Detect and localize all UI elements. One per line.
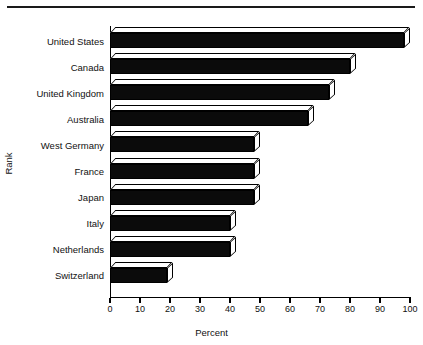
x-axis-tick-label: 70 [305,304,335,314]
bar-united-kingdom [110,85,329,100]
bar-front-face [110,111,308,126]
bar-west-germany [110,137,254,152]
category-label-united-states: United States [47,36,104,47]
bar-front-face [110,85,329,100]
bar-united-states [110,33,404,48]
bar-front-face [110,216,230,231]
bar-front-face [110,268,167,283]
category-label-switzerland: Switzerland [55,270,104,281]
x-axis-tick [259,298,260,303]
x-axis-tick-label: 30 [185,304,215,314]
category-label-west-germany: West Germany [41,140,104,151]
bar-australia [110,111,308,126]
x-axis-tick-label: 10 [125,304,155,314]
x-axis-tick [139,298,140,303]
bar-netherlands [110,242,230,257]
x-axis-tick [109,298,110,303]
bar-switzerland [110,268,167,283]
category-label-france: France [74,166,104,177]
bar-canada [110,59,350,74]
bar-side-face [329,80,335,100]
x-axis-tick-label: 90 [365,304,395,314]
category-label-canada: Canada [71,62,104,73]
bar-chart-figure: United StatesCanadaUnited KingdomAustral… [0,0,423,345]
category-label-australia: Australia [67,114,104,125]
x-axis-tick-label: 80 [335,304,365,314]
x-axis-tick [289,298,290,303]
x-axis-tick [169,298,170,303]
x-axis-tick-label: 40 [215,304,245,314]
bar-front-face [110,190,254,205]
x-axis-tick-label: 100 [395,304,423,314]
x-axis-tick [379,298,380,303]
y-axis-title: Rank [3,144,14,184]
x-axis-tick [199,298,200,303]
bar-side-face [350,54,356,74]
bar-side-face [254,132,260,152]
bar-front-face [110,33,404,48]
bar-front-face [110,242,230,257]
x-axis-tick-label: 0 [95,304,125,314]
category-label-italy: Italy [87,218,104,229]
bar-front-face [110,137,254,152]
x-axis-tick [409,298,410,303]
bar-france [110,164,254,179]
x-axis-tick-label: 20 [155,304,185,314]
category-label-netherlands: Netherlands [53,244,104,255]
x-axis-title: Percent [0,327,423,338]
bar-front-face [110,164,254,179]
category-label-column: United StatesCanadaUnited KingdomAustral… [0,0,104,345]
x-axis-tick-label: 60 [275,304,305,314]
x-axis-tick [319,298,320,303]
x-axis-tick [229,298,230,303]
category-label-united-kingdom: United Kingdom [36,88,104,99]
x-axis-tick [349,298,350,303]
bar-side-face [308,106,314,126]
x-axis-tick-label: 50 [245,304,275,314]
bar-front-face [110,59,350,74]
category-label-japan: Japan [78,192,104,203]
bar-italy [110,216,230,231]
bar-japan [110,190,254,205]
